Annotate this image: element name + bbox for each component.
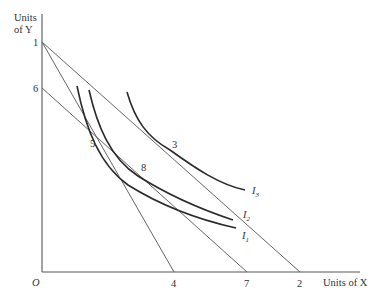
x-intercept-4-label: 4	[171, 278, 177, 289]
x-axis-label: Units of X	[323, 277, 368, 288]
point-8-label: 8	[141, 162, 146, 173]
budget-line-1-to-4	[42, 42, 174, 272]
indifference-curve-i1	[77, 86, 236, 228]
curve-label-i1: I1	[241, 230, 249, 244]
origin-label: O	[32, 277, 40, 288]
y-axis-label-line2: of Y	[14, 24, 33, 35]
y-intercept-6-label: 6	[33, 83, 38, 94]
curve-label-i3: I3	[251, 185, 260, 199]
point-3-label: 3	[172, 139, 177, 150]
x-intercept-7-label: 7	[244, 278, 249, 289]
budget-line-1-to-2	[42, 42, 300, 272]
indifference-curve-i3	[127, 92, 245, 190]
indifference-curve-diagram: Units of Y Units of X O 1 6 4 7 2 5 8 3 …	[0, 0, 379, 302]
y-intercept-1-label: 1	[33, 37, 38, 48]
y-axis-label-line1: Units	[14, 12, 37, 23]
x-intercept-2-label: 2	[297, 278, 302, 289]
indifference-curve-i2	[89, 90, 233, 220]
point-5-label: 5	[90, 138, 95, 149]
